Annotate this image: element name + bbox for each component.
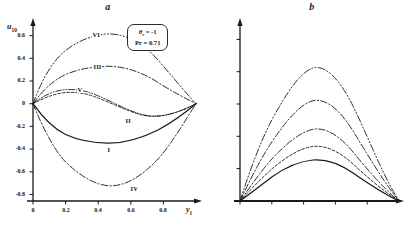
xtick-a-2: 0.4	[89, 207, 107, 213]
xtick-a-3: 0.6	[122, 207, 140, 213]
xtick-a-4: 0.8	[154, 207, 172, 213]
ytick-a-6: -0.6	[3, 168, 25, 174]
x-axis-subscript: 1	[190, 210, 193, 216]
panel-a-plot	[0, 0, 208, 228]
curve-vi	[33, 34, 196, 104]
ytick-a-7: -0.8	[3, 191, 25, 197]
ytick-a-1: 0.4	[3, 55, 25, 61]
curve-vi	[240, 68, 399, 201]
panel-a-label-v: V	[77, 86, 83, 93]
curve-i	[33, 104, 196, 144]
ytick-a-3: 0	[3, 100, 25, 106]
panel-a-x-axis-label: y1	[186, 205, 192, 216]
panel-a-legend-box: θr = -1 Pr = 0.71	[127, 24, 168, 51]
panel-a-label-i: I	[107, 146, 111, 153]
theta-value: = -1	[146, 28, 157, 35]
panel-a-label-ii: II	[125, 117, 131, 124]
figure-container: a	[0, 0, 416, 228]
ytick-a-2: 0.2	[3, 77, 25, 83]
panel-b-axes	[234, 18, 404, 205]
panel-b: b	[208, 0, 416, 228]
panel-b-curves	[240, 68, 399, 201]
curve-v	[240, 100, 399, 201]
panel-a: a	[0, 0, 208, 228]
panel-a-label-iii: III	[93, 63, 102, 70]
panel-a-label-iv: IV	[130, 185, 139, 192]
ytick-a-0: 0.6	[3, 32, 25, 38]
panel-a-legend-pr: Pr = 0.71	[135, 39, 160, 48]
xtick-a-1: 0.2	[57, 207, 75, 213]
curve-ii	[33, 92, 196, 116]
curve-iii-iv	[240, 129, 399, 201]
curve-iv	[33, 104, 196, 186]
panel-a-legend-theta: θr = -1	[135, 28, 160, 39]
panel-a-curves	[33, 34, 196, 186]
panel-b-plot	[208, 0, 416, 228]
y-axis-subscript: 10	[11, 27, 16, 33]
ytick-a-4: -0.2	[3, 123, 25, 129]
panel-a-label-vi: VI	[92, 31, 101, 38]
curve-v	[33, 89, 196, 116]
ytick-a-5: -0.4	[3, 145, 25, 151]
xtick-a-0: 0	[24, 207, 42, 213]
theta-subscript: r	[142, 32, 144, 37]
curve-iii	[33, 66, 196, 103]
panel-a-axes	[27, 18, 202, 205]
panel-a-y-axis-label: u10	[7, 22, 17, 33]
